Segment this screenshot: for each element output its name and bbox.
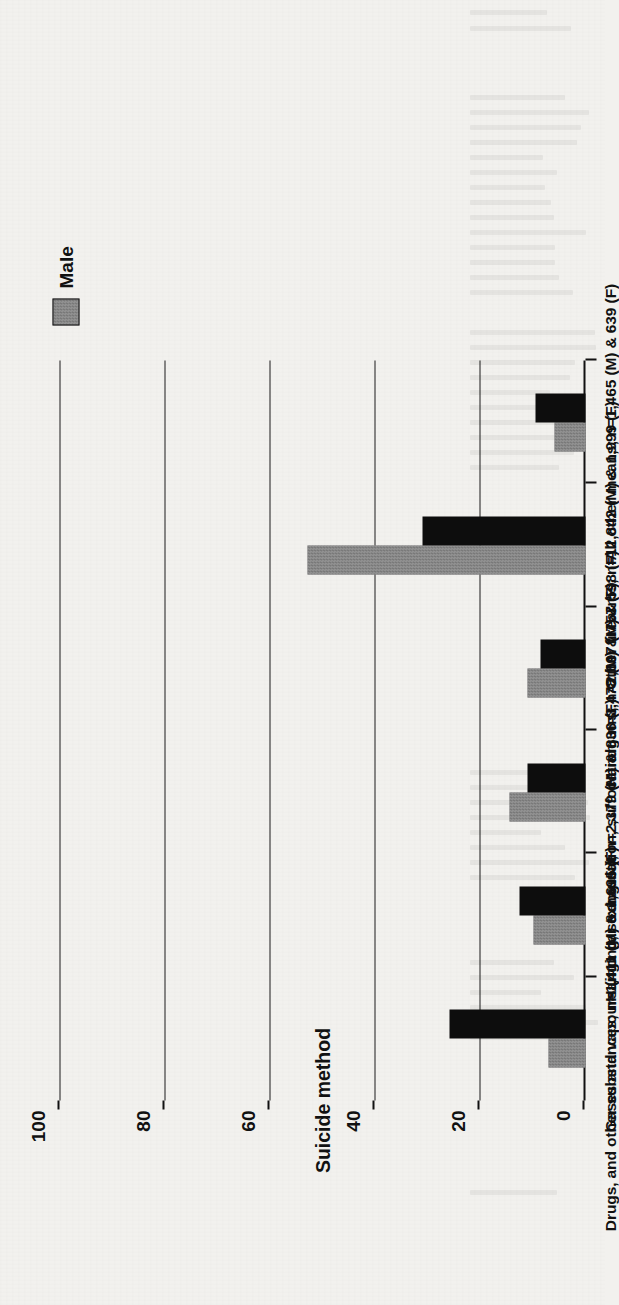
- bar-group: All other means; n=1,465 (M) & 639 (F): [60, 360, 585, 483]
- bar-male[interactable]: [533, 915, 586, 944]
- bar-group: Drugs, and other substances; n=1,411 (M)…: [60, 977, 585, 1100]
- legend-label-male: Male: [55, 246, 77, 288]
- category-label: All other means; n=1,465 (M) & 639 (F): [601, 283, 619, 560]
- category-tick: [585, 481, 596, 483]
- bars: [60, 607, 585, 730]
- bar-male[interactable]: [307, 545, 585, 574]
- bar-female[interactable]: [527, 763, 585, 792]
- bar-female[interactable]: [422, 516, 585, 545]
- category-tick: [585, 728, 596, 730]
- bar-group: Gases and vapours (inc. car exhaust); n=…: [60, 853, 585, 976]
- bar-male[interactable]: [527, 668, 585, 697]
- bars: [60, 853, 585, 976]
- bars: [60, 360, 585, 483]
- bar-male[interactable]: [554, 422, 586, 451]
- bar-female[interactable]: [449, 1009, 586, 1038]
- legend-swatch-male-icon: [52, 298, 79, 325]
- bars: [60, 730, 585, 853]
- category-tick: [585, 851, 596, 853]
- bar-group: Handguns; n=2,697 (M) & 598 (F): [60, 607, 585, 730]
- value-tick-label-40: 40: [342, 1110, 364, 1156]
- value-tick-label-20: 20: [447, 1110, 469, 1156]
- value-tick-mark-60: [267, 1100, 269, 1109]
- value-tick-mark-100: [57, 1100, 59, 1109]
- value-tick-mark-20: [477, 1100, 479, 1109]
- bar-male[interactable]: [509, 792, 585, 821]
- bars: [60, 483, 585, 606]
- bars: [60, 977, 585, 1100]
- value-tick-label-0: 0: [552, 1110, 574, 1156]
- bar-female[interactable]: [535, 393, 585, 422]
- legend: Male: [52, 246, 79, 325]
- value-tick-mark-0: [582, 1100, 584, 1109]
- bar-group: Other firearms; n=12,842 (M) & 1,999 (F): [60, 483, 585, 606]
- bar-group: Hanging, strangulation, suffocation; n=3…: [60, 730, 585, 853]
- value-tick-label-60: 60: [237, 1110, 259, 1156]
- value-tick-label-100: 100: [27, 1110, 49, 1156]
- category-tick: [585, 605, 596, 607]
- category-tick: [585, 358, 596, 360]
- bar-female[interactable]: [519, 886, 585, 915]
- category-tick: [585, 975, 596, 977]
- bar-female[interactable]: [540, 639, 585, 668]
- plot-area: 020406080100 Drugs, and other substances…: [60, 360, 585, 1100]
- value-tick-mark-40: [372, 1100, 374, 1109]
- value-tick-label-80: 80: [132, 1110, 154, 1156]
- bar-male[interactable]: [548, 1038, 585, 1067]
- value-tick-mark-80: [162, 1100, 164, 1109]
